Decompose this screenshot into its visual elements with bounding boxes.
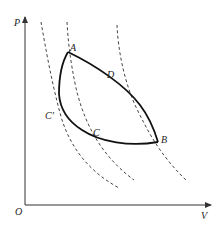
point-c-prime-label: C' (45, 110, 55, 121)
origin-label: O (15, 206, 22, 217)
point-a-label: A (69, 42, 77, 53)
pv-diagram: P O V A D B C C' (0, 0, 224, 231)
process-curve-b-c-a (59, 52, 158, 144)
isotherm-2 (67, 22, 134, 180)
point-c-label: C (93, 127, 100, 138)
point-d-label: D (106, 69, 115, 80)
isotherm-1 (41, 22, 119, 188)
process-curve-a-d-b (68, 52, 158, 142)
point-b-label: B (161, 134, 167, 145)
x-axis-label: V (201, 210, 209, 221)
isotherm-3 (117, 25, 186, 180)
y-axis-label: P (13, 17, 20, 28)
